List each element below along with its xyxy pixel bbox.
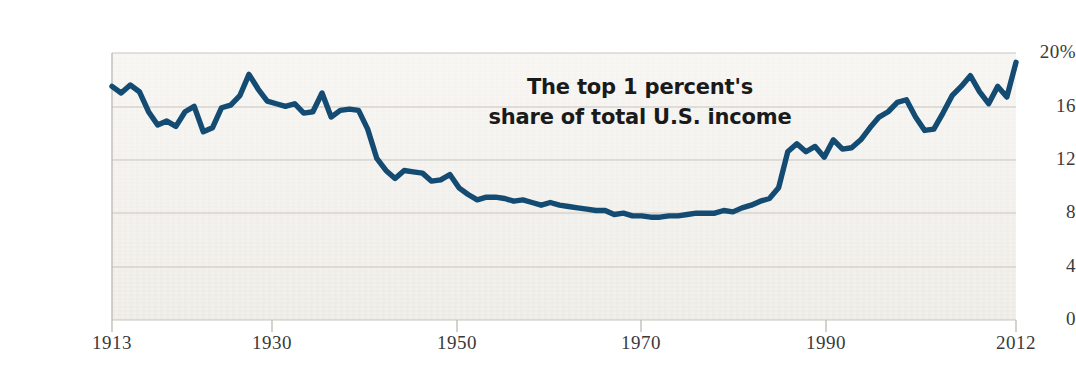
chart-title-line-2: share of total U.S. income: [470, 102, 810, 132]
y-axis-tick-label-20: 20%: [984, 42, 1076, 61]
x-axis-tick-label-1913: 1913: [52, 333, 172, 352]
y-axis-tick-label-12: 12: [984, 149, 1076, 168]
x-axis-tick-label-2012: 2012: [956, 333, 1076, 352]
y-axis-tick-label-0: 0: [984, 309, 1076, 328]
x-axis-tickmarks: [112, 320, 1016, 332]
y-axis-tick-label-8: 8: [984, 202, 1076, 221]
chart-title: The top 1 percent's share of total U.S. …: [470, 72, 810, 133]
chart-figure: 20% 16 12 8 4 0 1913 1930 1950 1970 1990…: [0, 0, 1076, 392]
x-axis-tick-label-1970: 1970: [581, 333, 701, 352]
x-axis-tick-label-1990: 1990: [766, 333, 886, 352]
x-axis-tick-label-1950: 1950: [397, 333, 517, 352]
y-axis-tick-label-4: 4: [984, 256, 1076, 275]
chart-title-line-1: The top 1 percent's: [470, 72, 810, 102]
y-axis-tick-label-16: 16: [984, 96, 1076, 115]
x-axis-tick-label-1930: 1930: [212, 333, 332, 352]
